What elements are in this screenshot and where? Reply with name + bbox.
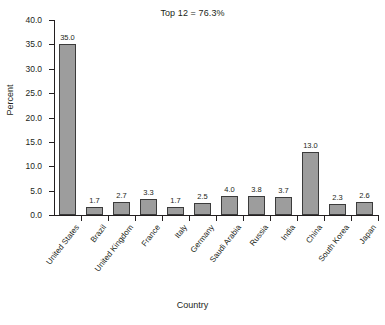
y-tick-mark: [49, 93, 54, 94]
x-tick-mark: [216, 216, 217, 221]
x-tick-mark: [378, 216, 379, 221]
y-tick-mark: [49, 118, 54, 119]
x-tick-mark: [351, 216, 352, 221]
x-tick-mark: [270, 216, 271, 221]
y-axis-line: [54, 20, 55, 216]
y-tick-label: 10.0: [0, 161, 42, 171]
bar-value-label: 3.7: [268, 186, 300, 195]
bar-value-label: 35.0: [52, 33, 84, 42]
bar: [113, 202, 129, 215]
y-tick-mark: [49, 142, 54, 143]
x-tick-mark: [108, 216, 109, 221]
bar: [167, 207, 183, 215]
y-tick-mark: [49, 44, 54, 45]
x-tick-mark: [324, 216, 325, 221]
y-tick-label: 25.0: [0, 88, 42, 98]
y-tick-mark: [49, 191, 54, 192]
y-tick-label: 0.0: [0, 210, 42, 220]
y-tick-mark: [49, 20, 54, 21]
bar: [248, 196, 264, 215]
plot-area: 40.035.030.025.020.015.010.05.00.0 35.01…: [54, 20, 378, 215]
bar: [329, 204, 345, 215]
x-tick-mark: [135, 216, 136, 221]
bar: [59, 44, 75, 215]
bar-value-label: 2.6: [349, 191, 381, 200]
x-tick-mark: [297, 216, 298, 221]
x-tick-mark: [243, 216, 244, 221]
bar: [140, 199, 156, 215]
bar-chart-figure: Top 12 = 76.3% Percent Country 40.035.03…: [0, 0, 385, 325]
y-tick-mark: [49, 166, 54, 167]
bar-value-label: 13.0: [295, 141, 327, 150]
chart-title: Top 12 = 76.3%: [0, 8, 385, 18]
x-tick-mark: [81, 216, 82, 221]
bar: [356, 202, 372, 215]
y-tick-label: 35.0: [0, 39, 42, 49]
y-tick-label: 30.0: [0, 64, 42, 74]
y-tick-label: 40.0: [0, 15, 42, 25]
y-tick-mark: [49, 69, 54, 70]
y-tick-label: 5.0: [0, 186, 42, 196]
y-tick-label: 20.0: [0, 113, 42, 123]
bar: [275, 197, 291, 215]
x-tick-mark: [162, 216, 163, 221]
bar: [194, 203, 210, 215]
y-tick-label: 15.0: [0, 137, 42, 147]
x-axis-title: Country: [0, 300, 385, 310]
x-tick-mark: [189, 216, 190, 221]
bar: [221, 196, 237, 216]
bar: [302, 152, 318, 215]
y-tick-mark: [49, 215, 54, 216]
bar: [86, 207, 102, 215]
